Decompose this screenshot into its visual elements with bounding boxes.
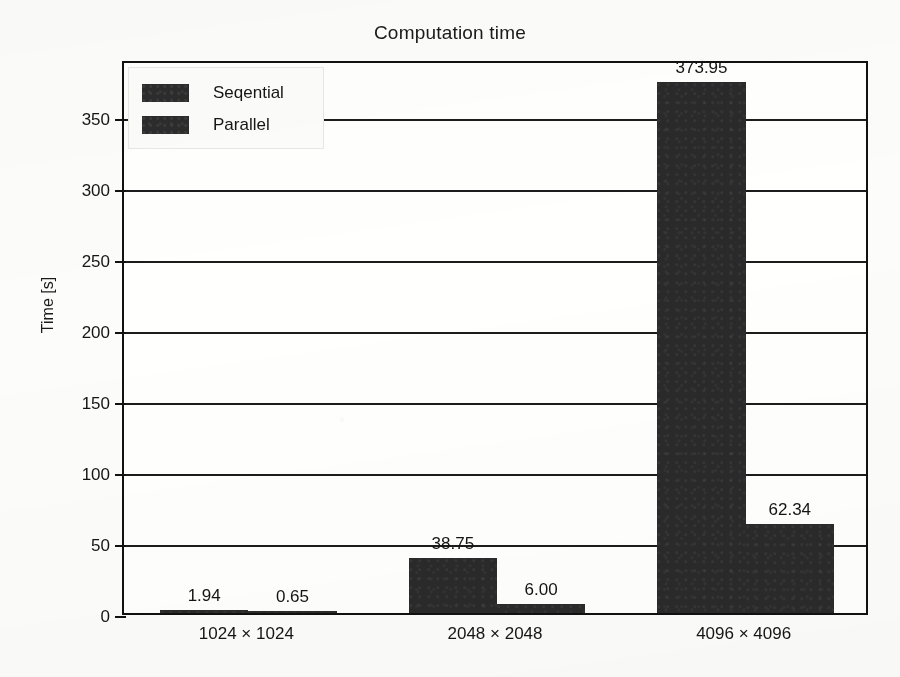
y-axis-title: Time [s]: [39, 235, 57, 375]
chart-title: Computation time: [0, 22, 900, 44]
bar: [409, 558, 497, 613]
y-tick-label: 200: [82, 323, 110, 343]
bar: [497, 604, 585, 613]
bar-value-label: 373.95: [676, 58, 728, 78]
y-tick-label: 100: [82, 465, 110, 485]
bar: [248, 611, 336, 613]
y-tick-mark: [115, 616, 126, 618]
bar: [160, 610, 248, 613]
bar-value-label: 6.00: [525, 580, 558, 600]
bar-value-label: 62.34: [769, 500, 812, 520]
legend-entry-seqential: Seqential: [142, 77, 323, 109]
bar: [746, 524, 834, 613]
bar-value-label: 38.75: [432, 534, 475, 554]
x-category-label: 1024 × 1024: [199, 624, 294, 644]
y-tick-label: 150: [82, 394, 110, 414]
bar-value-label: 0.65: [276, 587, 309, 607]
y-tick-label: 250: [82, 252, 110, 272]
chart-figure: Computation time Time [s] 05010015020025…: [0, 0, 900, 677]
y-tick-label: 50: [91, 536, 110, 556]
y-tick-label: 300: [82, 181, 110, 201]
bar: [657, 82, 745, 613]
legend-swatch-seqential: [142, 84, 189, 102]
y-tick-label: 350: [82, 110, 110, 130]
y-tick-label: 0: [101, 607, 110, 627]
legend-label-parallel: Parallel: [213, 115, 270, 135]
chart-legend: Seqential Parallel: [128, 67, 324, 149]
bar-value-label: 1.94: [188, 586, 221, 606]
legend-swatch-parallel: [142, 116, 189, 134]
legend-entry-parallel: Parallel: [142, 109, 323, 141]
x-category-label: 4096 × 4096: [696, 624, 791, 644]
legend-label-seqential: Seqential: [213, 83, 284, 103]
x-category-label: 2048 × 2048: [447, 624, 542, 644]
